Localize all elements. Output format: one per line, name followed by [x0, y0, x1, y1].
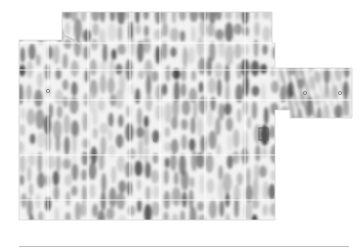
bottom-divider — [19, 246, 349, 247]
heatmap-field — [0, 0, 364, 249]
heatmap-canvas — [0, 0, 364, 249]
